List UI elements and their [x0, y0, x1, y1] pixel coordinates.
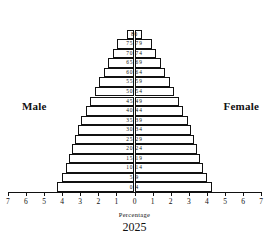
x-axis-tick-label: 1: [146, 197, 160, 206]
female-bar: [135, 97, 179, 107]
male-bar: [66, 163, 135, 173]
male-bar: [117, 39, 134, 49]
female-bar: [135, 163, 204, 173]
male-bar: [78, 125, 134, 135]
pyramid-row: 35 39: [0, 116, 269, 126]
female-bar: [135, 125, 191, 135]
female-bar: [135, 58, 161, 68]
x-axis-tick-label: 6: [236, 197, 250, 206]
x-axis-tick-label: 7: [1, 197, 15, 206]
pyramid-row: 0 4: [0, 182, 269, 192]
pyramid-row: 50 54: [0, 87, 269, 97]
x-axis-tick-label: 5: [218, 197, 232, 206]
x-axis-tick: [153, 192, 154, 196]
x-axis-tick: [98, 192, 99, 196]
female-bar: [135, 116, 188, 126]
x-axis-tick-label: 3: [73, 197, 87, 206]
x-axis-tick-label: 5: [37, 197, 51, 206]
pyramid-row: 40 44: [0, 106, 269, 116]
female-bar: [135, 87, 175, 97]
male-bar: [72, 144, 134, 154]
male-bar: [95, 87, 135, 97]
male-bar: [90, 97, 134, 107]
pyramid-row: 80: [0, 30, 269, 40]
x-axis-tick: [116, 192, 117, 196]
pyramid-row: 60 64: [0, 68, 269, 78]
male-bar: [86, 106, 135, 116]
x-axis-tick: [261, 192, 262, 196]
female-bar: [135, 49, 157, 59]
female-bar: [135, 30, 142, 40]
pyramid-row: 5 9: [0, 173, 269, 183]
female-bar: [135, 182, 213, 192]
x-axis-tick-label: 7: [254, 197, 268, 206]
female-bar: [135, 68, 166, 78]
male-bar: [113, 49, 135, 59]
pyramid-row: 70 74: [0, 49, 269, 59]
pyramid-row: 65 69: [0, 58, 269, 68]
x-axis-tick: [243, 192, 244, 196]
male-bar: [99, 77, 134, 87]
female-bar: [135, 106, 184, 116]
pyramid-row: 75 79: [0, 39, 269, 49]
male-bar: [69, 154, 134, 164]
pyramid-row: 20 24: [0, 144, 269, 154]
x-axis-tick: [225, 192, 226, 196]
x-axis-tick-label: 6: [19, 197, 33, 206]
x-axis-tick: [171, 192, 172, 196]
male-bar: [57, 182, 135, 192]
female-bar: [135, 144, 197, 154]
x-axis-tick-label: 1: [109, 197, 123, 206]
x-axis-tick-label: 3: [182, 197, 196, 206]
male-bar: [108, 58, 134, 68]
chart-title-year: 2025: [0, 220, 269, 235]
x-axis-title: Percentage: [0, 211, 269, 218]
x-axis-tick: [26, 192, 27, 196]
female-bar: [135, 154, 200, 164]
x-axis-tick: [189, 192, 190, 196]
female-bar: [135, 173, 207, 183]
male-bar: [104, 68, 135, 78]
x-axis-tick-label: 2: [91, 197, 105, 206]
male-bar: [81, 116, 134, 126]
female-bar: [135, 135, 195, 145]
female-bar: [135, 77, 170, 87]
x-axis-tick: [44, 192, 45, 196]
male-bar: [62, 173, 134, 183]
x-axis-tick: [207, 192, 208, 196]
male-bar: [127, 30, 134, 40]
x-axis-tick: [80, 192, 81, 196]
x-axis-tick-label: 2: [164, 197, 178, 206]
x-axis-tick-label: 0: [128, 197, 142, 206]
male-bar: [75, 135, 135, 145]
x-axis-tick: [62, 192, 63, 196]
x-axis-tick-label: 4: [55, 197, 69, 206]
pyramid-row: 30 34: [0, 125, 269, 135]
x-axis-tick-label: 4: [200, 197, 214, 206]
pyramid-row: 10 14: [0, 163, 269, 173]
population-pyramid-chart: Male Female 0 45 910 1415 1920 2425 2930…: [0, 0, 269, 241]
pyramid-row: 45 49: [0, 97, 269, 107]
pyramid-row: 55 59: [0, 77, 269, 87]
pyramid-plot-area: 0 45 910 1415 1920 2425 2930 3435 3940 4…: [0, 0, 269, 193]
female-bar: [135, 39, 152, 49]
pyramid-row: 25 29: [0, 135, 269, 145]
x-axis-tick: [8, 192, 9, 196]
x-axis-tick: [135, 192, 136, 196]
pyramid-row: 15 19: [0, 154, 269, 164]
